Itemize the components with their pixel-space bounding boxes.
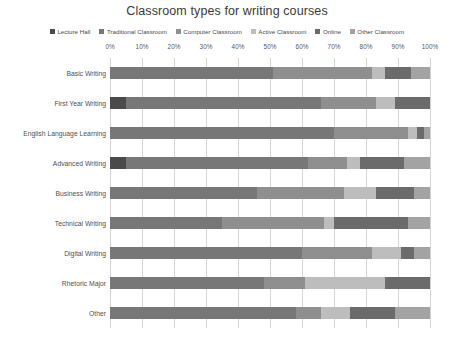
bar-segment[interactable] [222, 217, 324, 229]
legend-swatch-icon [315, 29, 320, 34]
bar-segment[interactable] [334, 127, 408, 139]
bar-segment[interactable] [344, 187, 376, 199]
bar-row[interactable] [110, 247, 430, 259]
bar-segment[interactable] [385, 277, 430, 289]
bar-row[interactable] [110, 157, 430, 169]
legend-item[interactable]: Other Classroom [350, 28, 404, 35]
bar-segment[interactable] [350, 307, 395, 319]
x-axis-tick-label: 30% [200, 43, 213, 50]
y-axis-category-label: Technical Writing [55, 220, 106, 227]
bar-segment[interactable] [334, 217, 408, 229]
y-axis-category-label: Advanced Writing [53, 160, 106, 167]
x-axis-tick-label: 60% [296, 43, 309, 50]
legend-item-label: Active Classroom [258, 28, 306, 35]
x-axis-tick-label: 0% [105, 43, 114, 50]
legend-item[interactable]: Computer Classroom [176, 28, 242, 35]
y-axis-category-label: Basic Writing [66, 70, 106, 77]
bar-segment[interactable] [411, 67, 430, 79]
bar-segment[interactable] [372, 67, 385, 79]
bar-segment[interactable] [404, 157, 430, 169]
bar-row[interactable] [110, 127, 430, 139]
bar-segment[interactable] [424, 127, 430, 139]
chart-title: Classroom types for writing courses [0, 4, 454, 18]
legend-item-label: Other Classroom [357, 28, 404, 35]
y-axis-category-label: First Year Writing [54, 100, 106, 107]
bar-segment[interactable] [110, 247, 302, 259]
bar-row[interactable] [110, 67, 430, 79]
bar-segment[interactable] [110, 277, 264, 289]
bar-series-group [110, 58, 430, 328]
y-axis-category-label: Business Writing [56, 190, 107, 197]
bar-segment[interactable] [385, 67, 411, 79]
bar-segment[interactable] [408, 127, 418, 139]
bar-segment[interactable] [395, 97, 430, 109]
bar-segment[interactable] [324, 217, 334, 229]
bar-segment[interactable] [110, 67, 273, 79]
bar-segment[interactable] [376, 187, 414, 199]
bar-segment[interactable] [305, 277, 385, 289]
y-axis-category-label: Other [89, 310, 106, 317]
bar-segment[interactable] [360, 157, 405, 169]
bar-row[interactable] [110, 307, 430, 319]
bar-segment[interactable] [372, 247, 401, 259]
bar-row[interactable] [110, 97, 430, 109]
bar-segment[interactable] [110, 187, 257, 199]
bar-segment[interactable] [408, 217, 430, 229]
x-axis-tick-label: 20% [168, 43, 181, 50]
x-axis-tick-label: 40% [232, 43, 245, 50]
bar-segment[interactable] [110, 127, 334, 139]
chart-container: Classroom types for writing courses Lect… [0, 0, 454, 341]
bar-segment[interactable] [126, 97, 321, 109]
bar-segment[interactable] [110, 97, 126, 109]
x-axis-tick-label: 90% [392, 43, 405, 50]
bar-segment[interactable] [347, 157, 360, 169]
x-axis-tick-label: 10% [136, 43, 149, 50]
bar-segment[interactable] [110, 157, 126, 169]
bar-row[interactable] [110, 217, 430, 229]
bar-segment[interactable] [414, 187, 430, 199]
chart-legend: Lecture HallTraditional ClassroomCompute… [0, 28, 454, 35]
plot-area [110, 58, 430, 328]
legend-item-label: Lecture Hall [57, 28, 90, 35]
legend-item-label: Online [323, 28, 341, 35]
bar-segment[interactable] [264, 277, 306, 289]
bar-segment[interactable] [110, 307, 296, 319]
bar-segment[interactable] [401, 247, 414, 259]
bar-segment[interactable] [395, 307, 430, 319]
y-axis-category-label: English Language Learning [23, 130, 106, 137]
legend-item[interactable]: Lecture Hall [50, 28, 91, 35]
bar-segment[interactable] [296, 307, 322, 319]
legend-item[interactable]: Active Classroom [251, 28, 307, 35]
y-axis-category-label: Rhetoric Major [62, 280, 106, 287]
legend-swatch-icon [251, 29, 256, 34]
legend-item-label: Computer Classroom [183, 28, 241, 35]
bar-segment[interactable] [376, 97, 395, 109]
bar-segment[interactable] [257, 187, 343, 199]
bar-segment[interactable] [302, 247, 372, 259]
gridline [430, 58, 431, 328]
bar-segment[interactable] [126, 157, 308, 169]
x-axis-tick-label: 50% [264, 43, 277, 50]
y-axis-category-labels: Basic WritingFirst Year WritingEnglish L… [0, 58, 106, 328]
legend-swatch-icon [50, 29, 55, 34]
bar-segment[interactable] [110, 217, 222, 229]
bar-row[interactable] [110, 187, 430, 199]
bar-segment[interactable] [321, 97, 375, 109]
legend-swatch-icon [99, 29, 104, 34]
legend-item[interactable]: Online [315, 28, 340, 35]
legend-swatch-icon [176, 29, 181, 34]
bar-segment[interactable] [273, 67, 372, 79]
legend-swatch-icon [350, 29, 355, 34]
x-axis-tick-label: 80% [360, 43, 373, 50]
x-axis-tick-label: 70% [328, 43, 341, 50]
legend-item[interactable]: Traditional Classroom [99, 28, 166, 35]
bar-segment[interactable] [321, 307, 350, 319]
x-axis-tick-labels: 0%10%20%30%40%50%60%70%80%90%100% [0, 43, 454, 55]
bar-row[interactable] [110, 277, 430, 289]
legend-item-label: Traditional Classroom [107, 28, 167, 35]
y-axis-category-label: Digital Writing [64, 250, 106, 257]
bar-segment[interactable] [308, 157, 346, 169]
bar-segment[interactable] [414, 247, 430, 259]
x-axis-tick-label: 100% [422, 43, 438, 50]
